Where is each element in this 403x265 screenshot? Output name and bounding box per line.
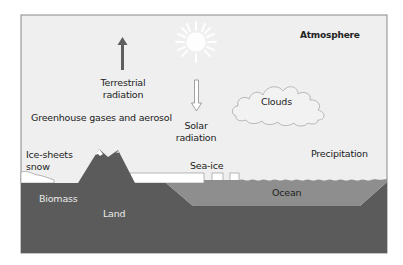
solar-line2: radiation xyxy=(176,132,217,144)
sea-ice-label: Sea-ice xyxy=(190,160,223,172)
clouds-label: Clouds xyxy=(261,96,292,108)
greenhouse-label: Greenhouse gases and aerosol xyxy=(31,112,172,124)
ice-sheets-line2: snow xyxy=(26,161,73,173)
precipitation-label: Precipitation xyxy=(311,148,368,160)
sea-ice-shelf xyxy=(130,173,204,183)
sun-icon xyxy=(176,22,216,62)
land-label: Land xyxy=(103,208,125,220)
solar-line1: Solar xyxy=(176,120,217,132)
terrestrial-radiation-label: Terrestrial radiation xyxy=(101,77,146,101)
biomass-label: Biomass xyxy=(39,193,78,205)
terrestrial-line2: radiation xyxy=(101,89,146,101)
climate-system-diagram: Atmosphere Terrestrial radiation Greenho… xyxy=(0,0,403,265)
solar-radiation-label: Solar radiation xyxy=(176,120,217,144)
ice-sheets-line1: Ice-sheets xyxy=(26,149,73,161)
ocean-label: Ocean xyxy=(272,187,301,199)
atmosphere-label: Atmosphere xyxy=(300,29,360,41)
ice-sheets-label: Ice-sheets snow xyxy=(26,149,73,173)
terrestrial-line1: Terrestrial xyxy=(101,77,146,89)
